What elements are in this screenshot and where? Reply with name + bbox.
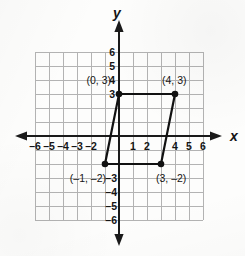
x-axis-label: x xyxy=(229,128,239,144)
vertex-dot-3-neg2 xyxy=(158,161,165,168)
x-tick-neg3: –3 xyxy=(71,140,83,152)
x-tick-neg6: –6 xyxy=(29,140,41,152)
y-tick-neg6: –6 xyxy=(105,214,117,226)
y-axis-arrow-up xyxy=(114,20,123,32)
y-tick-3: 3 xyxy=(109,88,115,100)
vertex-dots xyxy=(102,91,179,168)
vertex-label-bottom-right: (3, –2) xyxy=(156,172,186,184)
vertex-label-top-right: (4, 3) xyxy=(162,74,187,86)
x-axis-arrow-right xyxy=(210,131,222,140)
axes xyxy=(15,20,222,246)
y-tick-6: 6 xyxy=(109,46,115,58)
y-tick-5: 5 xyxy=(109,60,115,72)
vertex-label-top-left: (0, 3) xyxy=(86,74,111,86)
y-axis-label: y xyxy=(112,5,122,21)
x-tick-2: 2 xyxy=(144,140,150,152)
x-tick-1: 1 xyxy=(130,140,136,152)
x-tick-neg5: –5 xyxy=(43,140,55,152)
parallelogram-shape xyxy=(105,94,175,164)
coordinate-plane-figure: y x –6 –5 –4 –3 –2 1 2 4 5 6 6 5 4 3 –3 … xyxy=(0,0,245,256)
y-tick-neg5: –5 xyxy=(105,200,117,212)
vertex-dot-0-3 xyxy=(116,91,123,98)
y-axis-arrow-down xyxy=(114,234,123,246)
vertex-dot-neg1-neg2 xyxy=(102,161,109,168)
y-tick-neg3: –3 xyxy=(105,172,117,184)
x-tick-5: 5 xyxy=(186,140,192,152)
x-tick-4: 4 xyxy=(172,140,178,152)
y-tick-neg4: –4 xyxy=(105,186,117,198)
x-tick-neg4: –4 xyxy=(57,140,69,152)
vertex-dot-4-3 xyxy=(172,91,179,98)
x-tick-6: 6 xyxy=(200,140,206,152)
x-tick-neg2: –2 xyxy=(85,140,97,152)
x-axis-arrow-left xyxy=(15,131,27,140)
vertex-label-bottom-left: (–1, –2) xyxy=(70,172,106,184)
